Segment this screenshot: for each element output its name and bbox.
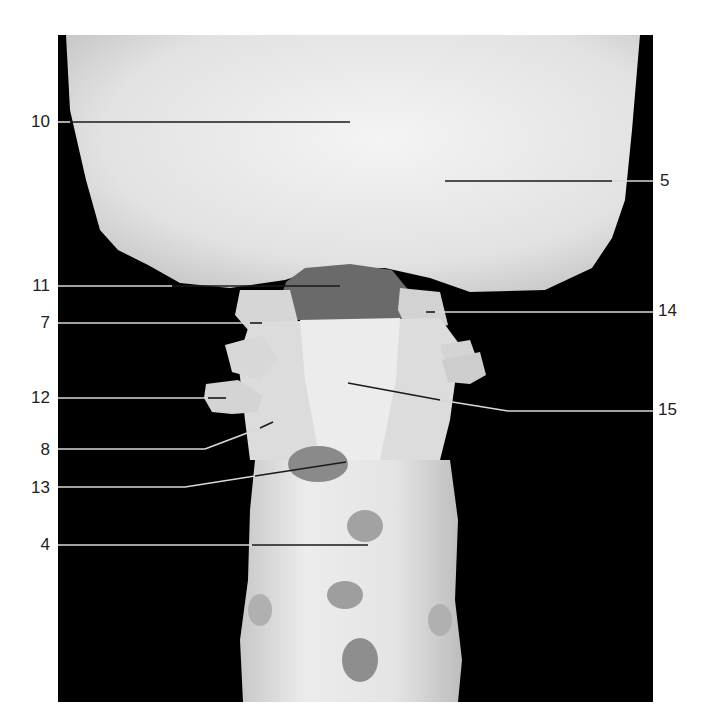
specimen-photo [58, 35, 653, 702]
label-4: 4 [10, 535, 50, 555]
label-5: 5 [660, 171, 669, 191]
anatomy-figure: 1051114712158134 [0, 0, 710, 718]
label-15: 15 [658, 400, 677, 420]
label-11: 11 [10, 276, 50, 296]
label-7: 7 [10, 313, 50, 333]
label-10: 10 [10, 112, 50, 132]
label-13: 13 [10, 478, 50, 498]
specimen-illustration [58, 35, 653, 702]
skull-occipital [66, 35, 640, 292]
label-12: 12 [10, 388, 50, 408]
label-14: 14 [658, 301, 677, 321]
label-8: 8 [10, 440, 50, 460]
